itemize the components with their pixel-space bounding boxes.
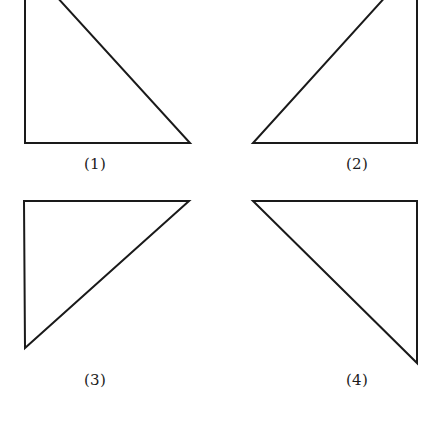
figure-2-label: (2) <box>346 155 368 173</box>
figure-1-label: (1) <box>84 155 106 173</box>
triangles-diagram <box>0 0 440 423</box>
diagram-background <box>0 0 440 423</box>
figure-3-label: (3) <box>84 371 106 389</box>
figure-board: (1) (2) (3) (4) <box>0 0 440 423</box>
figure-4-label: (4) <box>346 371 368 389</box>
